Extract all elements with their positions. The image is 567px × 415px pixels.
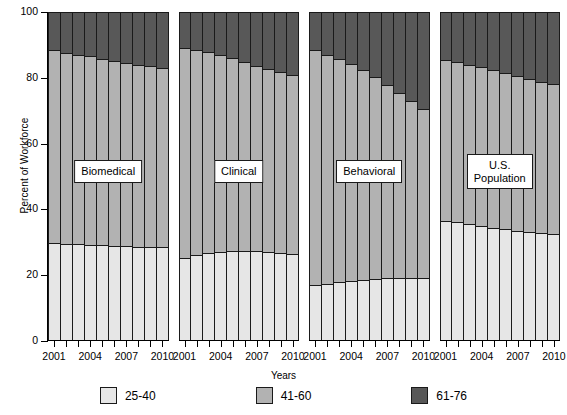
- x-axis-tick-label: 2007: [367, 350, 407, 362]
- bar-segment-25-40: [500, 230, 511, 341]
- legend-label: 61-76: [436, 389, 467, 403]
- stacked-bar: [287, 13, 298, 341]
- bar-segment-25-40: [203, 254, 214, 341]
- legend-label: 41-60: [281, 389, 312, 403]
- bar-segment-25-40: [97, 246, 108, 341]
- bar-segment-61-76: [464, 12, 475, 66]
- legend-item: 41-60: [256, 387, 312, 404]
- bar-segment-61-76: [346, 12, 357, 65]
- stacked-bar: [191, 13, 203, 341]
- panel-label: Clinical: [214, 160, 263, 183]
- x-axis-tick: [530, 341, 531, 347]
- bar-segment-25-40: [133, 248, 144, 341]
- stacked-bar: [441, 13, 453, 341]
- bar-segment-61-76: [121, 12, 132, 64]
- x-axis-tick: [399, 341, 400, 347]
- bar-segment-25-40: [418, 279, 429, 342]
- bar-segment-61-76: [203, 12, 214, 53]
- chart-panel: 2001200420072010Biomedical: [48, 12, 169, 341]
- x-axis-tick: [54, 341, 55, 347]
- bar-segment-61-76: [358, 12, 369, 71]
- bar-segment-41-60: [488, 70, 499, 229]
- stacked-bar: [180, 13, 192, 341]
- bar-segment-25-40: [310, 286, 321, 341]
- bar-segment-25-40: [157, 248, 168, 341]
- bar-segment-61-76: [251, 12, 262, 67]
- bar-segment-25-40: [548, 235, 559, 341]
- bar-segment-61-76: [157, 12, 168, 69]
- x-axis-tick: [209, 341, 210, 347]
- bar-segment-61-76: [275, 12, 286, 73]
- bar-segment-61-76: [133, 12, 144, 66]
- bar-segment-25-40: [524, 233, 535, 341]
- y-axis-ticks: 020406080100: [0, 0, 38, 415]
- bar-segment-25-40: [263, 253, 274, 341]
- x-axis-tick: [221, 341, 222, 347]
- bar-segment-41-60: [394, 93, 405, 279]
- bar-segment-41-60: [476, 67, 487, 227]
- panel-label: Behavioral: [336, 160, 402, 183]
- chart-panel: 2001200420072010U.S. Population: [440, 12, 561, 341]
- bar-segment-25-40: [287, 255, 298, 341]
- y-axis-tick-label: 100: [8, 6, 38, 17]
- bar-segment-41-60: [322, 55, 333, 285]
- legend-swatch: [100, 387, 117, 404]
- bar-segment-61-76: [418, 12, 429, 110]
- x-axis-tick: [126, 341, 127, 347]
- bar-segment-41-60: [500, 73, 511, 230]
- bar-segment-61-76: [310, 12, 321, 51]
- x-axis-tick: [257, 341, 258, 347]
- bar-segment-61-76: [227, 12, 238, 59]
- x-axis-tick: [554, 341, 555, 347]
- bar-segment-41-60: [464, 65, 475, 225]
- legend: 25-4041-6061-76: [0, 387, 567, 404]
- x-axis-tick-label: 2004: [331, 350, 371, 362]
- bar-segment-41-60: [548, 84, 559, 235]
- stacked-bar: [536, 13, 548, 341]
- bar-segment-25-40: [488, 229, 499, 341]
- bar-segment-61-76: [488, 12, 499, 71]
- y-axis-tick-label: 0: [8, 335, 38, 346]
- x-axis-tick: [494, 341, 495, 347]
- bar-segment-25-40: [180, 259, 191, 341]
- bar-segment-25-40: [85, 246, 96, 341]
- bar-segment-25-40: [476, 227, 487, 341]
- x-axis-tick: [482, 341, 483, 347]
- legend-item: 25-40: [100, 387, 156, 404]
- chart-panel: 2001200420072010Clinical: [179, 12, 300, 341]
- x-axis-tick-label: 2001: [165, 350, 205, 362]
- bar-segment-61-76: [322, 12, 333, 56]
- bar-segment-25-40: [215, 253, 226, 341]
- bar-segment-41-60: [61, 53, 72, 245]
- x-axis-tick-label: 2004: [201, 350, 241, 362]
- x-axis-tick: [90, 341, 91, 347]
- x-axis-tick: [315, 341, 316, 347]
- bar-segment-61-76: [73, 12, 84, 56]
- stacked-bar: [275, 13, 287, 341]
- bar-segment-25-40: [382, 279, 393, 341]
- bar-segment-61-76: [215, 12, 226, 56]
- stacked-bar: [406, 13, 418, 341]
- bar-segment-41-60: [452, 62, 463, 223]
- bar-segment-61-76: [394, 12, 405, 94]
- bar-segment-25-40: [239, 252, 250, 341]
- x-axis-tick: [269, 341, 270, 347]
- bar-segment-61-76: [191, 12, 202, 51]
- bar-segment-61-76: [382, 12, 393, 86]
- x-axis-tick: [293, 341, 294, 347]
- panel-label: Biomedical: [74, 160, 142, 183]
- x-axis-tick-label: 2007: [237, 350, 277, 362]
- bar-segment-41-60: [418, 109, 429, 278]
- x-axis-tick: [542, 341, 543, 347]
- bar-segment-61-76: [524, 12, 535, 80]
- bar-segment-41-60: [73, 55, 84, 245]
- x-axis-tick-label: 2001: [426, 350, 466, 362]
- bar-segment-61-76: [180, 12, 191, 49]
- bar-segment-41-60: [215, 55, 226, 253]
- bar-segment-41-60: [203, 52, 214, 254]
- bar-segment-61-76: [239, 12, 250, 63]
- bar-segment-41-60: [109, 61, 120, 247]
- bar-segment-41-60: [145, 66, 156, 248]
- x-axis-tick: [197, 341, 198, 347]
- bar-segment-41-60: [180, 48, 191, 259]
